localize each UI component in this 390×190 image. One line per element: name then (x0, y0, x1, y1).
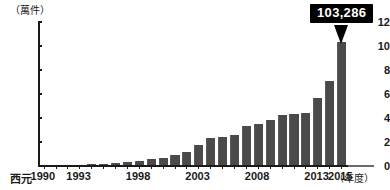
x-axis-tick-label: 2003 (185, 170, 209, 182)
bar (242, 126, 251, 166)
x-axis-tick (210, 166, 211, 169)
x-axis-tick (341, 166, 342, 169)
x-axis-tick-label: 2008 (245, 170, 269, 182)
bar (206, 138, 215, 166)
bar (194, 145, 203, 166)
x-axis-tick (163, 166, 164, 169)
callout-label: 103,286 (310, 4, 373, 23)
x-axis-tick (67, 166, 68, 169)
x-axis-tick (115, 166, 116, 169)
x-axis-tick (127, 166, 128, 169)
x-axis-tick (151, 166, 152, 169)
bar (278, 115, 287, 166)
bar (325, 81, 334, 166)
x-axis-tick-label: 1993 (66, 170, 90, 182)
x-axis-tick (329, 166, 330, 169)
bar (313, 98, 322, 166)
bar (218, 137, 227, 166)
x-axis-line-active (38, 165, 348, 167)
x-axis-era-prefix: 西元 (10, 170, 32, 186)
bar (182, 152, 191, 166)
y-axis-unit-label: （萬件） (10, 2, 50, 17)
x-axis-tick (44, 166, 45, 169)
x-axis-tick (282, 166, 283, 169)
x-axis-tick (270, 166, 271, 169)
x-axis-unit-label: （年度） (334, 170, 374, 185)
bar (254, 124, 263, 166)
x-axis-tick (79, 166, 80, 169)
x-axis-tick-label: 2013 (304, 170, 328, 182)
x-axis-tick (198, 166, 199, 169)
x-axis-tick-label: 1998 (126, 170, 150, 182)
x-axis-tick (103, 166, 104, 169)
x-axis-tick-label: 1990 (31, 170, 55, 182)
peak-value-callout: 103,286 (310, 4, 373, 23)
bar-series (38, 22, 374, 166)
x-axis-tick (294, 166, 295, 169)
bar (289, 114, 298, 166)
bar-chart: （萬件） 024681012 西元 1990199319982003200820… (0, 0, 390, 190)
x-axis-tick (56, 166, 57, 169)
x-axis-tick (175, 166, 176, 169)
x-axis-tick (305, 166, 306, 169)
bar (266, 120, 275, 166)
bar (230, 135, 239, 166)
x-axis-tick (222, 166, 223, 169)
x-axis-tick (91, 166, 92, 169)
x-axis-tick (186, 166, 187, 169)
x-axis-tick (139, 166, 140, 169)
callout-pointer-icon (334, 25, 348, 44)
x-axis-tick (246, 166, 247, 169)
x-axis-tick (258, 166, 259, 169)
x-axis-tick (317, 166, 318, 169)
x-axis-tick (234, 166, 235, 169)
bar (301, 113, 310, 166)
bar (337, 42, 346, 166)
